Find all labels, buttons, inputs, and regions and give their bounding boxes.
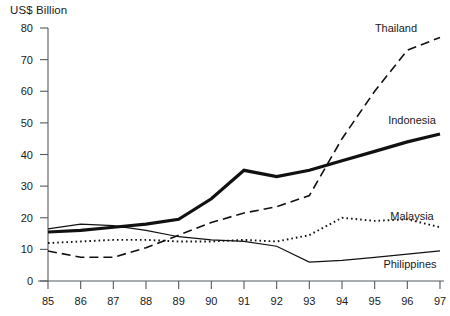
y-tick-label: 40 xyxy=(21,149,33,161)
x-tick-label: 90 xyxy=(205,295,217,307)
x-tick-label: 91 xyxy=(238,295,250,307)
y-tick-label: 50 xyxy=(21,117,33,129)
x-tick-label: 96 xyxy=(401,295,413,307)
line-chart-plot: 01020304050607080 8586878889909192939495… xyxy=(0,0,450,316)
y-axis-tick-group: 01020304050607080 xyxy=(21,22,48,287)
x-tick-label: 86 xyxy=(75,295,87,307)
x-tick-label: 87 xyxy=(107,295,119,307)
x-tick-label: 88 xyxy=(140,295,152,307)
y-tick-label: 60 xyxy=(21,85,33,97)
series-line-philippines xyxy=(48,224,440,262)
x-axis-tick-group: 85868788899091929394959697 xyxy=(42,281,446,307)
y-tick-label: 70 xyxy=(21,54,33,66)
y-tick-label: 0 xyxy=(27,275,33,287)
y-tick-label: 80 xyxy=(21,22,33,34)
y-tick-label: 30 xyxy=(21,180,33,192)
series-line-indonesia xyxy=(48,134,440,232)
series-label-malaysia: Malaysia xyxy=(390,210,434,222)
x-tick-label: 89 xyxy=(173,295,185,307)
series-label-thailand: Thailand xyxy=(375,22,417,34)
y-tick-label: 10 xyxy=(21,243,33,255)
series-label-indonesia: Indonesia xyxy=(388,114,437,126)
x-tick-label: 93 xyxy=(303,295,315,307)
x-tick-label: 85 xyxy=(42,295,54,307)
x-tick-label: 94 xyxy=(336,295,348,307)
series-label-group: ThailandIndonesiaMalaysiaPhilippines xyxy=(375,22,437,270)
series-group xyxy=(48,37,440,262)
series-line-malaysia xyxy=(48,218,440,243)
series-line-thailand xyxy=(48,37,440,257)
x-tick-label: 92 xyxy=(271,295,283,307)
x-tick-label: 97 xyxy=(434,295,446,307)
y-tick-label: 20 xyxy=(21,212,33,224)
x-tick-label: 95 xyxy=(369,295,381,307)
series-label-philippines: Philippines xyxy=(383,258,437,270)
chart-container: US$ Billion 01020304050607080 8586878889… xyxy=(0,0,450,316)
